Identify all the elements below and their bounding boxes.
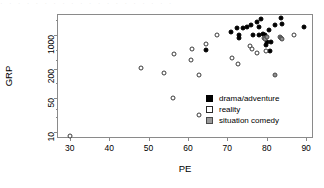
data-point-reality [196,113,201,118]
data-point-reality [250,46,255,51]
x-tick-label-90: 90 [301,144,310,153]
data-point-drama [272,23,277,28]
x-tick-label-30: 30 [65,144,74,153]
data-point-drama [248,23,253,28]
data-point-drama [235,26,240,31]
legend-swatch-reality-icon [206,106,213,113]
data-point-reality [189,46,194,51]
data-point-drama [302,25,307,30]
data-point-drama [256,24,261,29]
x-tick-70 [227,137,228,141]
x-tick-label-80: 80 [262,144,271,153]
y-tick-minor-30 [56,109,58,110]
y-tick-minor-500 [56,50,58,51]
data-point-reality [138,66,143,71]
y-tick-minor-2000 [56,20,58,21]
legend-label-sitcom: situation comedy [219,116,279,126]
data-point-sitcom [280,36,285,41]
legend-swatch-drama-icon [206,95,213,102]
data-point-drama [266,28,271,33]
data-point-reality [189,58,194,63]
data-point-reality [230,56,235,61]
legend-label-drama: drama/adventure [219,94,279,104]
data-point-reality [236,62,241,67]
data-point-drama [203,48,208,53]
legend-item-drama: drama/adventure [206,93,306,104]
data-point-reality [263,48,268,53]
data-point-reality [203,42,208,47]
legend-label-reality: reality [219,105,240,115]
x-tick-90 [306,137,307,141]
top-edge-artifact-text: · · · · · · · · · · · · · · · · · · · · [0,0,324,7]
legend-item-reality: reality [206,104,306,115]
data-point-reality [196,73,201,78]
data-point-reality [67,134,72,139]
x-tick-label-70: 70 [223,144,232,153]
plot-panel: 10502001000 30405060708090 drama/adventu… [57,14,313,138]
data-point-reality [171,95,176,100]
y-tick-minor-300 [56,60,58,61]
y-tick-label-10: 10 [47,132,56,141]
x-tick-60 [188,137,189,141]
data-point-reality [254,51,259,56]
y-tick-label-200: 200 [47,69,56,83]
x-axis-title: PE [179,163,192,174]
x-tick-50 [149,137,150,141]
data-point-drama [278,15,283,20]
data-point-reality [214,33,219,38]
x-tick-label-40: 40 [104,144,113,153]
legend-swatch-sitcom-icon [206,117,213,124]
x-tick-label-50: 50 [144,144,153,153]
data-point-drama [229,29,234,34]
y-tick-minor-20 [56,117,58,118]
y-tick-minor-100 [56,83,58,84]
y-axis-title: GRP [3,66,14,87]
scatter-plot-figure: · · · · · · · · · · · · · · · · · · · · … [0,0,324,188]
data-point-drama [280,21,285,26]
y-tick-label-1000: 1000 [47,35,56,54]
x-tick-label-60: 60 [183,144,192,153]
x-tick-80 [267,137,268,141]
data-point-reality [172,52,177,57]
data-point-drama [250,32,255,37]
data-point-drama [258,17,263,22]
data-point-reality [291,33,296,38]
data-point-drama [237,33,242,38]
legend: drama/adventurerealitysituation comedy [206,93,306,126]
data-point-sitcom [273,72,278,77]
data-point-sitcom [264,35,269,40]
y-tick-label-50: 50 [47,98,56,107]
legend-item-sitcom: situation comedy [206,115,306,126]
data-point-reality [162,70,167,75]
x-tick-40 [109,137,110,141]
